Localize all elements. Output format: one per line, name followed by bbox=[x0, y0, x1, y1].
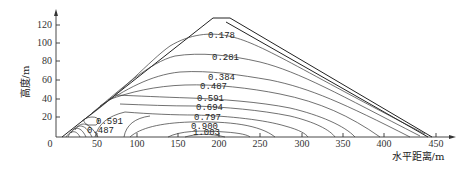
svg-text:20: 20 bbox=[42, 111, 52, 122]
svg-text:60: 60 bbox=[42, 74, 52, 85]
svg-text:50: 50 bbox=[92, 138, 102, 149]
y-axis-title: 高度/m bbox=[19, 65, 31, 98]
svg-text:350: 350 bbox=[336, 138, 351, 149]
x-axis-arrow-icon bbox=[449, 135, 456, 139]
svg-text:100: 100 bbox=[130, 138, 145, 149]
svg-text:250: 250 bbox=[253, 138, 268, 149]
svg-text:0.281: 0.281 bbox=[212, 53, 239, 63]
svg-text:100: 100 bbox=[37, 37, 52, 48]
svg-text:300: 300 bbox=[295, 138, 310, 149]
contour-chart: 20 40 60 80 100 120 0 50 100 150 200 250… bbox=[0, 0, 475, 170]
svg-text:0.487: 0.487 bbox=[200, 82, 227, 92]
svg-text:80: 80 bbox=[42, 55, 52, 66]
svg-text:1.003: 1.003 bbox=[193, 128, 220, 138]
y-axis-arrow-icon bbox=[54, 9, 58, 16]
svg-text:0.694: 0.694 bbox=[196, 103, 223, 113]
svg-text:450: 450 bbox=[429, 138, 444, 149]
y-ticks: 20 40 60 80 100 120 bbox=[37, 19, 60, 122]
svg-text:40: 40 bbox=[42, 93, 52, 104]
svg-text:0: 0 bbox=[48, 138, 53, 149]
svg-text:400: 400 bbox=[377, 138, 392, 149]
svg-text:0.487: 0.487 bbox=[87, 126, 114, 136]
svg-text:0.178: 0.178 bbox=[208, 31, 235, 41]
svg-text:120: 120 bbox=[37, 19, 52, 30]
svg-text:150: 150 bbox=[171, 138, 186, 149]
svg-text:200: 200 bbox=[212, 138, 227, 149]
x-axis-title: 水平距离/m bbox=[392, 150, 445, 162]
contour-labels: 0.178 0.281 0.384 0.487 0.591 0.694 0.79… bbox=[87, 31, 239, 138]
